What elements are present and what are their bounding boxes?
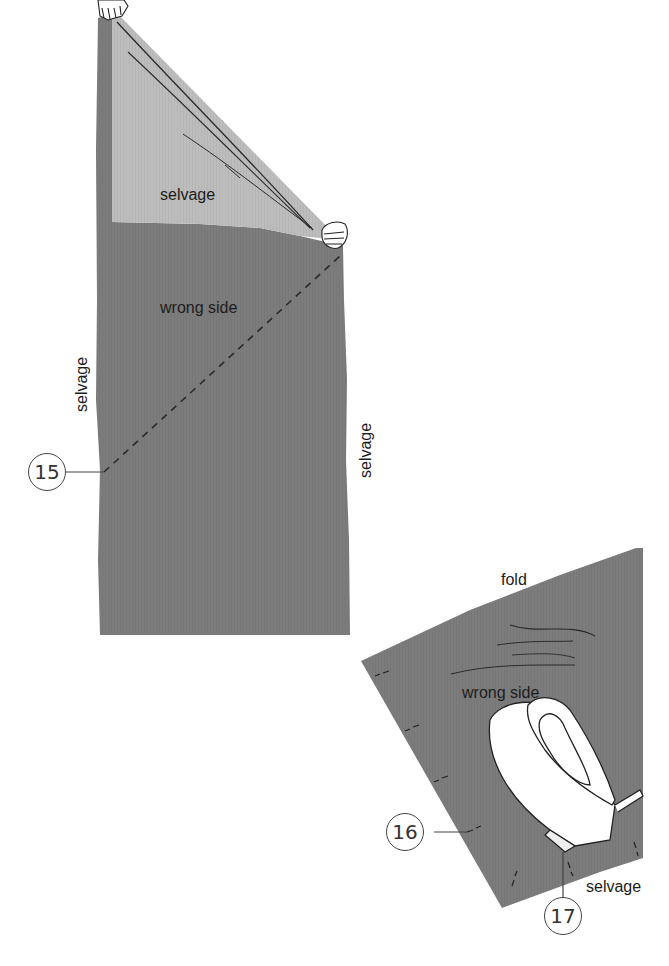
callout-15: 15 — [28, 453, 66, 491]
folded-selvage-triangle — [112, 10, 340, 240]
hand-icon — [322, 222, 347, 248]
label-left-selvage: selvage — [74, 357, 90, 412]
label-fold: fold — [501, 572, 527, 588]
callout-17: 17 — [544, 897, 582, 935]
label-wrong-side-top: wrong side — [160, 300, 237, 316]
label-folded-selvage: selvage — [160, 187, 215, 203]
label-wrong-side-bottom: wrong side — [462, 685, 539, 701]
panel-bottom-fabric — [361, 548, 643, 908]
label-bottom-selvage: selvage — [586, 879, 641, 895]
panel-top-fabric — [66, 0, 350, 635]
callout-16: 16 — [386, 813, 424, 851]
label-right-selvage: selvage — [358, 423, 374, 478]
sewing-instruction-figure: selvage wrong side selvage selvage 15 fo… — [0, 0, 669, 966]
hand-icon — [98, 0, 128, 20]
illustration-svg — [0, 0, 669, 966]
